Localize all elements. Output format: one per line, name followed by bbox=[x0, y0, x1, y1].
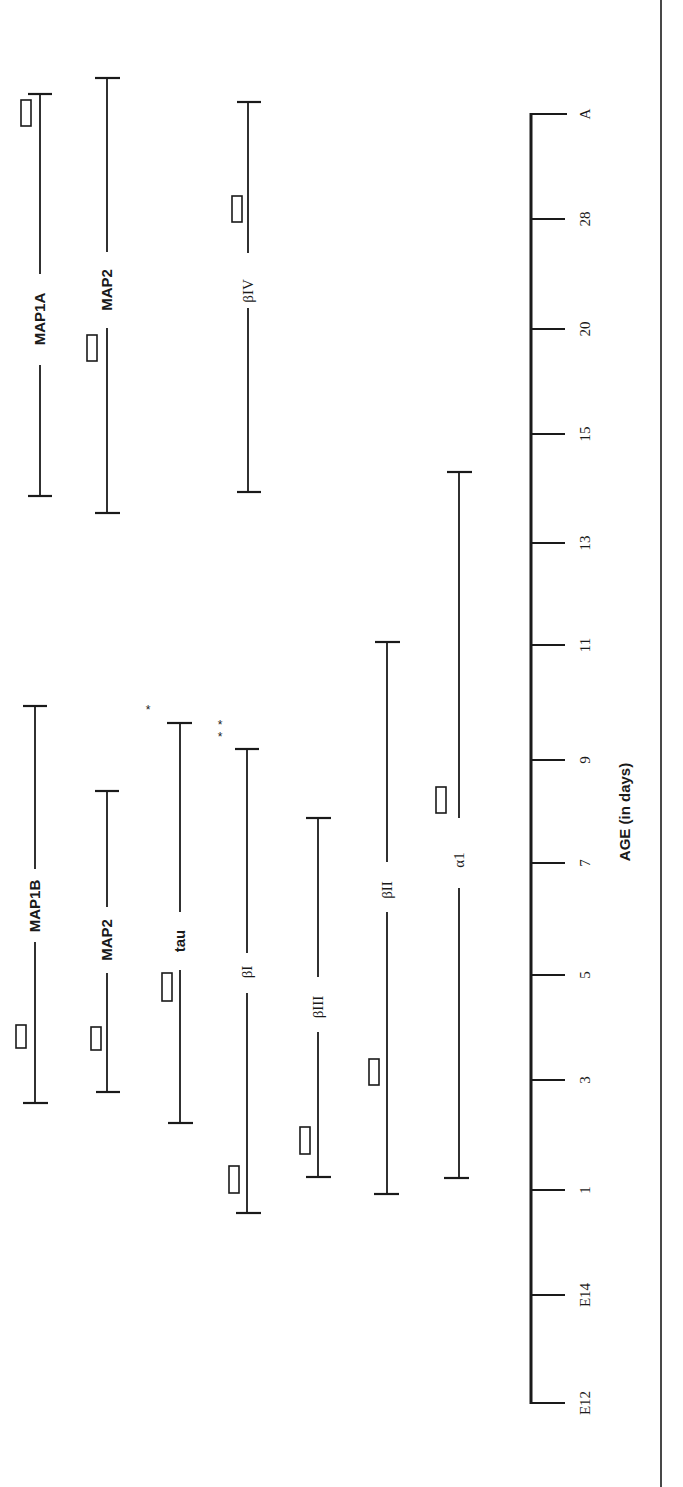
annotation-double-asterisk-2: * bbox=[218, 730, 223, 744]
tick-label-5: 5 bbox=[577, 971, 593, 979]
tick-label-28: 28 bbox=[577, 212, 593, 227]
bar-label-map2-late: MAP2 bbox=[98, 269, 115, 311]
annotation-asterisk: * bbox=[146, 703, 151, 717]
bar-label-beta-ii: βII bbox=[379, 881, 395, 899]
age-axis: A 28 20 15 13 11 9 7 5 3 1 E14 E12 AGE (… bbox=[530, 108, 633, 1415]
chart: A 28 20 15 13 11 9 7 5 3 1 E14 E12 AGE (… bbox=[0, 0, 683, 1487]
bar-label-map1a: MAP1A bbox=[31, 293, 48, 346]
bar-beta-iv: βIV bbox=[232, 102, 261, 492]
bar-label-alpha-1: α1 bbox=[451, 852, 467, 867]
bar-beta-ii: βII bbox=[369, 642, 400, 1194]
tick-label-11: 11 bbox=[577, 638, 593, 652]
marker-box bbox=[91, 1027, 101, 1050]
tick-label-7: 7 bbox=[577, 859, 593, 867]
bar-map2-late: MAP2 bbox=[87, 78, 120, 513]
marker-box bbox=[436, 787, 446, 813]
bar-label-beta-iii: βIII bbox=[310, 996, 326, 1019]
tick-label-9: 9 bbox=[577, 756, 593, 764]
marker-box bbox=[162, 973, 172, 1001]
tick-label-3: 3 bbox=[577, 1076, 593, 1084]
marker-box bbox=[21, 100, 31, 126]
bar-beta-i: βI * * bbox=[218, 718, 261, 1213]
bar-label-tau: tau bbox=[171, 930, 188, 953]
tick-label-a: A bbox=[577, 108, 593, 119]
tick-label-15: 15 bbox=[577, 427, 593, 442]
tick-label-e12: E12 bbox=[577, 1391, 593, 1415]
bar-map1a: MAP1A bbox=[21, 94, 52, 496]
bar-label-beta-iv: βIV bbox=[240, 279, 256, 303]
marker-box bbox=[300, 1127, 310, 1154]
bar-beta-iii: βIII bbox=[300, 818, 331, 1177]
marker-box bbox=[369, 1059, 379, 1085]
axis-title: AGE (in days) bbox=[616, 763, 633, 861]
tick-label-e14: E14 bbox=[577, 1282, 593, 1307]
marker-box bbox=[232, 196, 242, 222]
bar-map1b: MAP1B bbox=[16, 706, 48, 1103]
tick-label-1: 1 bbox=[577, 1186, 593, 1194]
tick-label-13: 13 bbox=[577, 536, 593, 551]
bar-tau: tau * bbox=[146, 703, 193, 1123]
marker-box bbox=[16, 1025, 26, 1048]
axis-tick-labels: A 28 20 15 13 11 9 7 5 3 1 E14 E12 bbox=[577, 108, 593, 1415]
bar-map2-early: MAP2 bbox=[91, 791, 120, 1092]
axis-ticks bbox=[530, 114, 567, 1403]
marker-box bbox=[87, 335, 97, 361]
bar-label-map2-early: MAP2 bbox=[98, 919, 115, 961]
tick-label-20: 20 bbox=[577, 322, 593, 337]
bar-alpha-1: α1 bbox=[436, 472, 472, 1178]
bar-label-beta-i: βI bbox=[239, 966, 255, 979]
bar-label-map1b: MAP1B bbox=[26, 880, 43, 933]
marker-box bbox=[229, 1166, 239, 1193]
